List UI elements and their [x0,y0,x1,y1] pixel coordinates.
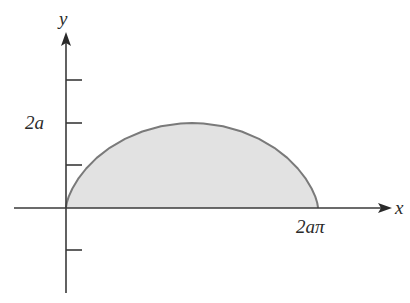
y-tick-label-2a: 2a [25,113,44,132]
diagram-svg [0,0,410,303]
shaded-region [66,123,318,208]
cycloid-diagram: y x 2a 2aπ [0,0,410,303]
x-axis-label: x [395,198,403,217]
x-tick-label-2api: 2aπ [296,217,325,236]
y-axis-label: y [59,9,67,28]
